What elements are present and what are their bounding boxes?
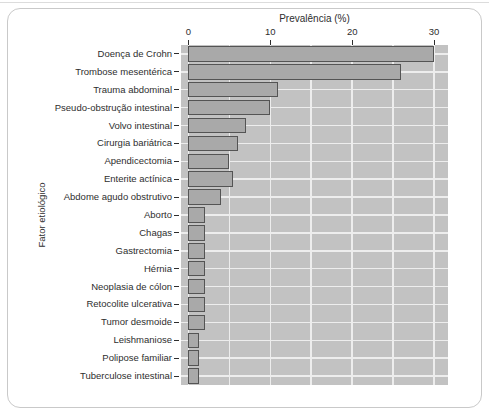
x-tick-label: 30 <box>422 27 446 37</box>
y-tick-mark <box>174 286 179 287</box>
bar <box>188 279 204 295</box>
gridline-horizontal <box>181 286 448 288</box>
y-tick-label: Doença de Crohn <box>20 49 172 59</box>
y-tick-mark <box>174 89 179 90</box>
y-tick-mark <box>174 376 179 377</box>
y-tick-mark <box>174 179 179 180</box>
y-tick-mark <box>174 107 179 108</box>
bar <box>188 368 199 384</box>
bar <box>188 136 237 152</box>
y-tick-mark <box>174 125 179 126</box>
y-tick-label: Trombose mesentérica <box>20 67 172 77</box>
y-tick-label: Hérnia <box>20 264 172 274</box>
bar <box>188 171 233 187</box>
gridline-horizontal <box>181 375 448 377</box>
y-tick-label: Neoplasia de cólon <box>20 282 172 292</box>
y-tick-label: Retocolite ulcerativa <box>20 299 172 309</box>
y-tick-mark <box>174 71 179 72</box>
bar <box>188 297 204 313</box>
y-tick-mark <box>174 161 179 162</box>
y-tick-mark <box>174 215 179 216</box>
y-tick-label: Volvo intestinal <box>20 121 172 131</box>
bar <box>188 82 278 98</box>
y-tick-mark <box>174 53 179 54</box>
gridline-horizontal <box>181 232 448 234</box>
x-tick-label: 0 <box>176 27 200 37</box>
y-tick-mark <box>174 268 179 269</box>
y-tick-mark <box>174 143 179 144</box>
bar <box>188 243 204 259</box>
y-tick-mark <box>174 322 179 323</box>
bar <box>188 100 270 116</box>
y-tick-mark <box>174 197 179 198</box>
y-tick-label: Trauma abdominal <box>20 85 172 95</box>
bar <box>188 64 401 80</box>
bar <box>188 46 434 62</box>
chart-x-axis-title: Prevalência (%) <box>181 13 448 24</box>
top-rule <box>0 2 489 3</box>
chart-y-axis-title: Fator etiológico <box>37 183 47 248</box>
y-tick-label: Cirurgia bariátrica <box>20 138 172 148</box>
y-tick-label: Tuberculose intestinal <box>20 371 172 381</box>
gridline-horizontal <box>181 357 448 359</box>
y-tick-label: Polipose familiar <box>20 353 172 363</box>
y-tick-label: Apendicectomia <box>20 156 172 166</box>
page: { "figure": { "title": "Prevalência (%)"… <box>0 0 489 416</box>
y-tick-label: Leishmaniose <box>20 335 172 345</box>
bar <box>188 261 204 277</box>
bar <box>188 154 229 170</box>
y-tick-mark <box>174 358 179 359</box>
bar <box>188 225 204 241</box>
plot-area <box>181 45 448 385</box>
x-tick-label: 20 <box>340 27 364 37</box>
bar <box>188 333 199 349</box>
y-tick-label: Tumor desmoide <box>20 317 172 327</box>
bar <box>188 315 204 331</box>
gridline-horizontal <box>181 214 448 216</box>
y-tick-mark <box>174 232 179 233</box>
y-tick-mark <box>174 340 179 341</box>
y-tick-mark <box>174 304 179 305</box>
gridline-horizontal <box>181 304 448 306</box>
gridline-horizontal <box>181 340 448 342</box>
bar <box>188 350 199 366</box>
gridline-horizontal <box>181 268 448 270</box>
bar <box>188 207 204 223</box>
gridline-horizontal <box>181 322 448 324</box>
gridline-horizontal <box>181 250 448 252</box>
bar <box>188 189 221 205</box>
y-tick-label: Pseudo-obstrução intestinal <box>20 103 172 113</box>
bar <box>188 118 245 134</box>
x-tick-label: 10 <box>258 27 282 37</box>
y-tick-mark <box>174 250 179 251</box>
